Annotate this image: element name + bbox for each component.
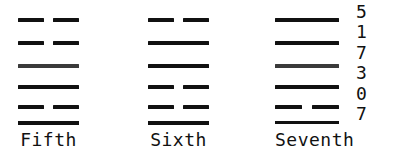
yao-segment (53, 18, 79, 22)
yao-row (18, 64, 79, 68)
hexagram-figure: Fifth Sixth (0, 0, 393, 164)
yao-row (148, 41, 209, 45)
yao-segment (148, 105, 174, 109)
yao-segment (148, 41, 209, 45)
yao-segment (18, 18, 44, 22)
yao-row (275, 105, 339, 109)
yao-row (18, 105, 79, 109)
digit: 1 (356, 22, 380, 42)
digit-column: 5 1 7 3 0 7 (356, 2, 380, 124)
digit: 3 (356, 63, 380, 83)
yao-segment (18, 64, 79, 68)
yao-segment (18, 105, 44, 109)
yao-row (275, 41, 339, 45)
yao-segment (275, 105, 302, 109)
yao-segment (53, 41, 79, 45)
yao-segment (148, 18, 174, 22)
hexagram-baseline-rule (18, 121, 79, 125)
yao-row (18, 41, 79, 45)
yao-row (148, 85, 209, 89)
hexagram-seventh: Seventh (275, 0, 339, 164)
yao-row (275, 85, 339, 89)
yao-row (148, 105, 209, 109)
digit: 7 (356, 104, 380, 124)
yao-segment (53, 105, 79, 109)
hexagram-caption: Fifth (18, 130, 79, 150)
digit: 0 (356, 84, 380, 104)
yao-segment (183, 85, 209, 89)
yao-segment (275, 85, 339, 89)
yao-segment (18, 41, 44, 45)
hexagram-fifth: Fifth (18, 0, 79, 164)
hexagram-baseline-rule (148, 121, 209, 125)
yao-segment (275, 41, 339, 45)
yao-segment (148, 85, 174, 89)
yao-segment (312, 105, 339, 109)
yao-segment (275, 64, 339, 68)
hexagram-sixth: Sixth (148, 0, 209, 164)
yao-row (275, 64, 339, 68)
yao-row (18, 85, 79, 89)
yao-segment (275, 18, 339, 22)
yao-segment (183, 18, 209, 22)
yao-segment (148, 64, 209, 68)
yao-segment (18, 85, 79, 89)
hexagram-caption: Seventh (275, 130, 339, 150)
hexagram-baseline-rule (275, 121, 339, 124)
yao-row (148, 18, 209, 22)
yao-row (18, 18, 79, 22)
digit: 7 (356, 43, 380, 63)
hexagram-caption: Sixth (148, 130, 209, 150)
yao-segment (183, 105, 209, 109)
digit: 5 (356, 2, 380, 22)
yao-row (275, 18, 339, 22)
yao-row (148, 64, 209, 68)
